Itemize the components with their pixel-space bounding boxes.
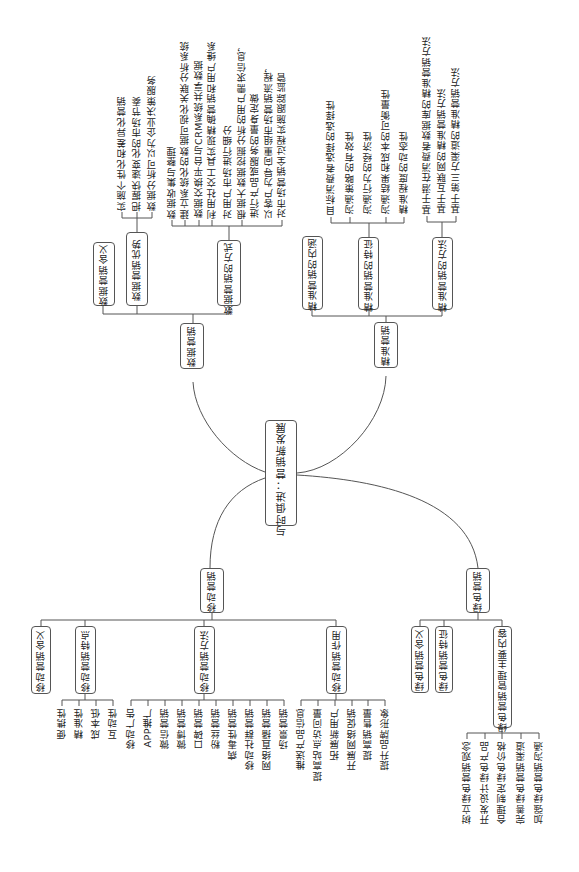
node-mobile-methods[interactable]: 移动营销方法 <box>194 626 215 694</box>
leaf-item: 沟通结果和成本的可衡量性 <box>380 88 392 214</box>
leaf-item: 数据分析可以为企业决策服务 <box>146 74 158 211</box>
node-data-marketing[interactable]: 数据营销 <box>180 323 204 369</box>
leaf-item: 便携性 <box>56 707 68 739</box>
leaf-item: 拓展新用户 <box>329 707 341 760</box>
node-precision-marketing[interactable]: 精准营销 <box>374 322 398 368</box>
leaf-item: 开展网络促销 <box>346 707 358 770</box>
leaf-item: 对用户市场进行细分 <box>222 124 234 219</box>
leaf-item: 沟通策略的有效性 <box>344 130 356 214</box>
leaf-item: 成本低 <box>90 707 102 739</box>
node-data-marketing-meaning[interactable]: 数据营销含义 <box>93 242 115 306</box>
node-green-marketing[interactable]: 绿色营销 <box>466 568 490 613</box>
node-mobile-features[interactable]: 移动营销特点 <box>75 626 96 694</box>
node-precision-methods[interactable]: 精准营销的方法 <box>432 237 453 310</box>
leaf-item: 微信营销 <box>159 707 171 749</box>
leaf-item: 实施个性化和差异化营销 <box>116 95 128 211</box>
node-precision-connotation[interactable]: 精准营销的内涵 <box>302 236 323 310</box>
leaf-item: 进行产品或服务的量身定做 <box>249 92 261 218</box>
leaf-item: 移动广告 <box>125 707 137 749</box>
leaf-item: 把握快速变化的市场节奏 <box>131 95 143 211</box>
leaf-item: 树立绿色营销观念 <box>461 740 473 824</box>
leaf-item: 建立系统化的数据可视化关联分析系统 <box>179 40 191 219</box>
leaf-item: 口碑营销 <box>193 707 205 749</box>
node-data-marketing-advantages[interactable]: 数据营销优势 <box>126 232 148 306</box>
root-label: 与时俱进：营销新发展 <box>275 421 287 536</box>
leaf-item: 场景营销 <box>278 707 290 749</box>
leaf-item: 以客户为导向重组市场营销流程， <box>263 61 275 219</box>
leaf-item: 精准性 <box>73 707 85 739</box>
leaf-item: 完善绿色营销渠道 <box>515 740 527 824</box>
node-mobile-meaning[interactable]: 移动营销含义 <box>31 626 51 694</box>
node-precision-features[interactable]: 精准营销的特征 <box>358 237 379 310</box>
leaf-item: 基于潜在消费者数据库的精准营销方法 <box>421 35 433 214</box>
leaf-item: 精准程度的动态性 <box>398 130 410 214</box>
leaf-item: 数据交换平台与CRM系统共享数据 <box>193 59 205 218</box>
leaf-item: 合理制定绿色价格 <box>496 740 508 824</box>
leaf-item: 网络直播营销 <box>261 707 273 770</box>
leaf-item: 移动社群营销 <box>244 707 256 770</box>
leaf-item: 目标消费者选择的选择性 <box>325 99 337 215</box>
leaf-item: 沟通行为的经济性 <box>362 130 374 214</box>
node-mobile-marketing[interactable]: 移动营销 <box>200 568 224 613</box>
leaf-item: 粉丝营销 <box>210 707 222 749</box>
leaf-item: 病毒性营销 <box>227 707 239 760</box>
node-mobile-functions[interactable]: 移动营销作用 <box>326 626 347 694</box>
root-node[interactable]: 与时俱进：营销新发展 <box>265 420 297 526</box>
leaf-item: 基于互联网的精准营销方法 <box>436 87 448 213</box>
leaf-item: 数据收集与整理 <box>166 145 178 219</box>
leaf-item: 推送产品信息 <box>295 707 307 770</box>
leaf-item: 提高销售量 <box>362 707 374 760</box>
leaf-item: APP推广 <box>142 707 154 747</box>
node-data-marketing-methods[interactable]: 数据营销的方式 <box>217 240 241 306</box>
node-green-features[interactable]: 绿色营销特征 <box>435 626 453 693</box>
leaf-item: 微博营销 <box>176 707 188 749</box>
leaf-item: 提高站点访问量 <box>312 707 324 781</box>
leaf-item: 互动性 <box>107 707 119 739</box>
leaf-item: 利用社交工具实现精确营销和用户维系 <box>206 40 218 219</box>
leaf-item: 根据大数据挖掘分析的用户需求信息， <box>236 40 248 219</box>
leaf-item: 开发设计绿色产品 <box>479 740 491 824</box>
leaf-item: 基于第三方渠道的精准营销方法 <box>450 66 462 213</box>
node-green-content[interactable]: 绿色营销管理主要内容 <box>493 626 512 728</box>
leaf-item: 加强绿色营销沟通 <box>533 740 545 824</box>
node-green-meaning[interactable]: 绿色营销含义 <box>411 626 429 693</box>
leaf-item: 对市场营销全过程实施跟踪监管 <box>276 71 288 218</box>
leaf-item: 提升品牌形象 <box>379 707 391 770</box>
